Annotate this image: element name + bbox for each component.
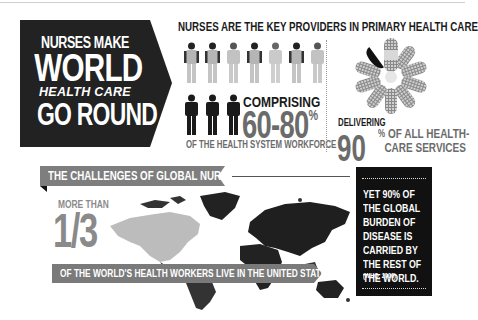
person-icon [184, 42, 199, 84]
person-icon [205, 42, 220, 84]
top-divider [0, 2, 465, 3]
hero-line-4: GO ROUND [37, 100, 133, 130]
services-value: 90 [337, 128, 366, 170]
services-caption-line-2: CARE SERVICES [378, 141, 466, 155]
person-icon [247, 42, 262, 84]
person-icon [205, 94, 220, 136]
people-row-bottom [184, 94, 241, 136]
services-caption-line-1: OF ALL HEALTH- [388, 127, 469, 141]
person-icon [289, 42, 304, 84]
person-icon [226, 94, 241, 136]
title-rule [232, 176, 350, 177]
percent-sign: % [308, 106, 317, 123]
side-note-box: YET 90% OF THE GLOBAL BURDEN OF DISEASE … [356, 167, 432, 296]
dotted-separator [326, 40, 327, 152]
person-icon [310, 42, 325, 84]
side-note-text: YET 90% OF THE GLOBAL BURDEN OF DISEASE … [363, 187, 430, 285]
bandage-flower-icon [352, 38, 430, 116]
percent-sign: % [378, 128, 385, 139]
citation: (WHO, 2006). [363, 272, 398, 279]
hero-line-2: WORLD [34, 51, 135, 85]
dotted-rule-bottom [362, 288, 426, 289]
section-title: NURSES ARE THE KEY PROVIDERS IN PRIMARY … [178, 20, 478, 34]
person-icon [184, 94, 199, 136]
challenges-title: THE CHALLENGES OF GLOBAL NURSES: [48, 169, 244, 183]
fraction-value: 1/3 [53, 203, 97, 258]
services-caption: % OF ALL HEALTH- CARE SERVICES [378, 127, 469, 155]
people-row-top [184, 42, 325, 84]
caption-text: OF THE WORLD'S HEALTH WORKERS LIVE IN TH… [60, 267, 391, 279]
hero-arrow-box: NURSES MAKE WORLD HEALTH CARE GO ROUND [20, 20, 172, 147]
world-map-icon [100, 190, 350, 310]
person-icon [268, 42, 283, 84]
person-icon [226, 42, 241, 84]
dotted-rule-top [362, 178, 426, 179]
workforce-caption: OF THE HEALTH SYSTEM WORKFORCE [186, 139, 336, 150]
